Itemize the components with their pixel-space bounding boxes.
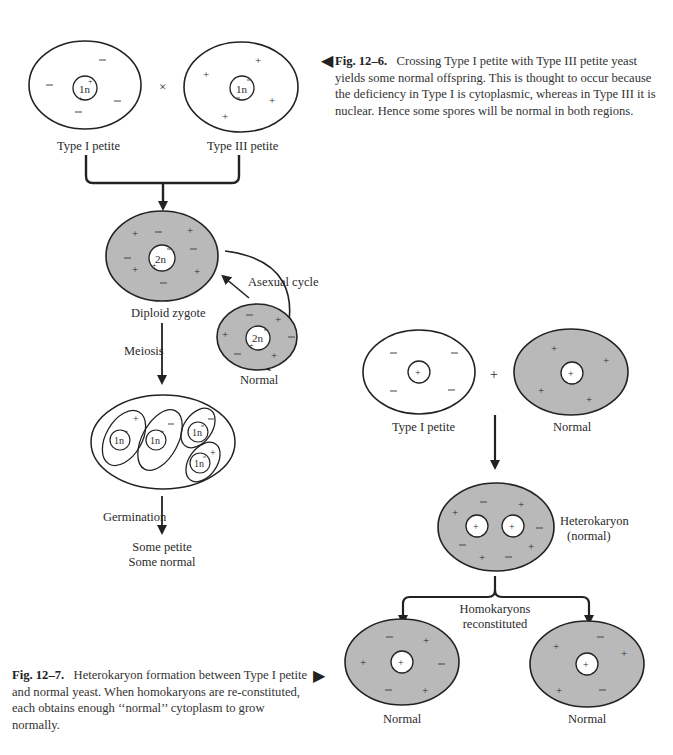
asexual-cycle-label: Asexual cycle xyxy=(248,275,319,289)
normal-cell: + + + + + xyxy=(514,329,628,415)
plus-symbol: + xyxy=(490,367,498,382)
type3-petite-label: Type III petite xyxy=(207,139,279,153)
svg-text:+: + xyxy=(133,413,139,424)
svg-text:+: + xyxy=(210,447,216,458)
svg-text:2n: 2n xyxy=(252,332,264,344)
svg-text:+: + xyxy=(275,313,281,325)
svg-text:+: + xyxy=(88,77,93,86)
result-normal-right-cell: + + + + xyxy=(530,621,644,707)
svg-text:+: + xyxy=(518,498,524,510)
svg-text:+: + xyxy=(160,428,164,436)
cross-symbol: × xyxy=(159,79,166,94)
svg-text:+: + xyxy=(249,341,254,350)
diploid-zygote-label: Diploid zygote xyxy=(131,306,206,320)
figure-12-6-label: Fig. 12–6. xyxy=(335,54,387,68)
result-normal-left-label: Normal xyxy=(383,712,422,726)
outcome-petite: Some petite xyxy=(132,540,192,554)
svg-text:+: + xyxy=(222,110,228,122)
svg-text:+: + xyxy=(423,634,429,646)
svg-text:+: + xyxy=(553,640,559,652)
svg-text:1n: 1n xyxy=(114,435,124,446)
svg-text:+: + xyxy=(583,659,589,670)
svg-text:+: + xyxy=(124,428,128,436)
svg-text:1n: 1n xyxy=(194,458,204,469)
svg-text:+: + xyxy=(203,68,209,80)
svg-text:+: + xyxy=(255,54,261,66)
homokaryons-label: Homokaryons xyxy=(460,602,531,616)
normal-label-2: Normal xyxy=(553,420,592,434)
result-normal-left-cell: + + + + xyxy=(345,619,459,705)
svg-text:+: + xyxy=(194,265,200,277)
svg-text:+: + xyxy=(422,684,428,696)
ascus-cell: 1n + + 1n + 1n 1n + xyxy=(91,395,235,489)
svg-text:+: + xyxy=(556,684,562,696)
svg-text:+: + xyxy=(551,342,557,354)
svg-text:+: + xyxy=(271,349,277,361)
svg-text:+: + xyxy=(398,657,404,668)
svg-text:+: + xyxy=(132,227,138,239)
figure-12-7-caption: Fig. 12–7. Heterokaryon formation betwee… xyxy=(12,667,312,733)
germination-label: Germination xyxy=(103,510,167,524)
svg-text:1n: 1n xyxy=(192,427,202,438)
svg-text:+: + xyxy=(78,94,83,103)
svg-text:+: + xyxy=(415,367,421,378)
type1-petite-label-2: Type I petite xyxy=(392,420,455,434)
svg-text:+: + xyxy=(187,224,193,236)
normal-diploid-cell: 2n + + + + xyxy=(217,304,297,370)
heterokaryon-sublabel: (normal) xyxy=(567,529,611,543)
figure-12-6-caption: Fig. 12–6. Crossing Type I petite with T… xyxy=(335,53,665,119)
svg-text:+: + xyxy=(538,384,544,396)
svg-text:+: + xyxy=(509,521,515,532)
svg-text:+: + xyxy=(132,263,138,275)
svg-text:+: + xyxy=(452,506,458,518)
svg-text:2n: 2n xyxy=(155,253,167,265)
svg-text:+: + xyxy=(152,261,157,270)
svg-text:+: + xyxy=(360,656,366,668)
meiosis-label: Meiosis xyxy=(124,344,164,358)
type3-petite-cell: 1n + + + + xyxy=(184,42,298,132)
outcome-normal: Some normal xyxy=(128,555,196,569)
svg-text:1n: 1n xyxy=(150,435,160,446)
result-normal-right-label: Normal xyxy=(568,712,607,726)
svg-text:+: + xyxy=(586,393,592,405)
caption-pointer-left-icon: ◀ xyxy=(321,53,333,69)
svg-text:+: + xyxy=(473,521,479,532)
normal-label: Normal xyxy=(240,373,279,387)
svg-text:+: + xyxy=(603,354,609,366)
heterokaryon-cell: + + + + + + xyxy=(438,483,554,571)
type1-petite-cell-2: + xyxy=(363,330,475,414)
reconstituted-label: reconstituted xyxy=(463,617,528,631)
type1-petite-label: Type I petite xyxy=(57,139,120,153)
caption-pointer-right-icon: ▶ xyxy=(313,668,325,684)
svg-text:+: + xyxy=(269,94,275,106)
type1-petite-cell: 1n + + xyxy=(29,41,141,129)
svg-text:+: + xyxy=(222,328,228,340)
svg-text:+: + xyxy=(621,647,627,659)
svg-text:+: + xyxy=(568,368,574,379)
diploid-zygote-cell: 2n + + + + + xyxy=(106,211,218,301)
svg-text:+: + xyxy=(528,540,534,552)
svg-text:1n: 1n xyxy=(236,83,248,95)
svg-text:+: + xyxy=(479,551,485,563)
figure-12-7-label: Fig. 12–7. xyxy=(12,668,64,682)
heterokaryon-label: Heterokaryon xyxy=(560,514,629,528)
